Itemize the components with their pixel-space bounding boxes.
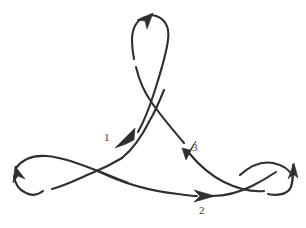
crossing-label-3: 3 xyxy=(192,142,198,153)
strand-right-loop-upper xyxy=(240,163,293,177)
strand-right-loop-turn xyxy=(268,165,293,195)
strand-left-loop-turn xyxy=(14,176,43,195)
strand-left-loop-upper xyxy=(16,156,128,183)
strand-top-loop-left-upper xyxy=(132,17,146,59)
crossing-label-1: 1 xyxy=(104,132,110,143)
knot-diagram-svg xyxy=(0,0,306,228)
arrow-crossing-1-head xyxy=(115,128,135,148)
arrow-left-loop-head xyxy=(13,166,25,183)
crossing-label-2: 2 xyxy=(199,205,205,216)
strand-bottom-span-right xyxy=(212,172,276,196)
knot-diagram-canvas: 1 2 3 xyxy=(0,0,306,228)
strand-bottom-span xyxy=(98,171,197,196)
strand-left-loop-lower xyxy=(52,158,122,189)
